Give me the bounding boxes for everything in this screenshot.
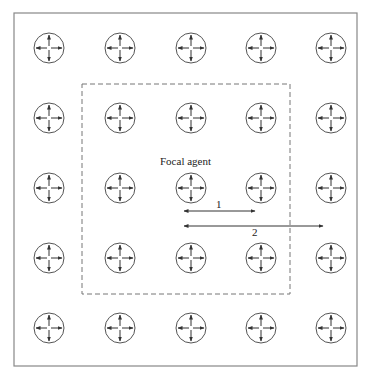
agent-icon [316, 173, 346, 203]
agent-icon [105, 243, 135, 273]
agent-icon [316, 313, 346, 343]
focal-agent-label: Focal agent [160, 155, 211, 167]
agent-icon [34, 173, 64, 203]
agent-icon [105, 33, 135, 63]
focal-agent-icon [176, 173, 206, 203]
agent-icon [34, 33, 64, 63]
agent-icon [105, 103, 135, 133]
distance-label-1: 1 [216, 198, 222, 210]
agent-icon [246, 103, 276, 133]
agent-icon [176, 243, 206, 273]
agent-icon [316, 243, 346, 273]
agent-icon [105, 313, 135, 343]
agent-icon [176, 313, 206, 343]
neighborhood-box [82, 84, 290, 294]
agent-icon [246, 173, 276, 203]
agent-icon [105, 173, 135, 203]
outer-frame [14, 13, 357, 366]
agent-icon [176, 33, 206, 63]
distance-label-2: 2 [252, 226, 258, 238]
agent-icon [246, 243, 276, 273]
agent-icon [34, 313, 64, 343]
distance-arrows [184, 211, 323, 226]
agent-icon [34, 103, 64, 133]
agents-group [34, 33, 346, 343]
agent-icon [316, 103, 346, 133]
agent-icon [316, 33, 346, 63]
agent-icon [246, 313, 276, 343]
agent-icon [34, 243, 64, 273]
agent-icon [246, 33, 276, 63]
agent-icon [176, 103, 206, 133]
agent-grid-diagram [0, 0, 371, 379]
